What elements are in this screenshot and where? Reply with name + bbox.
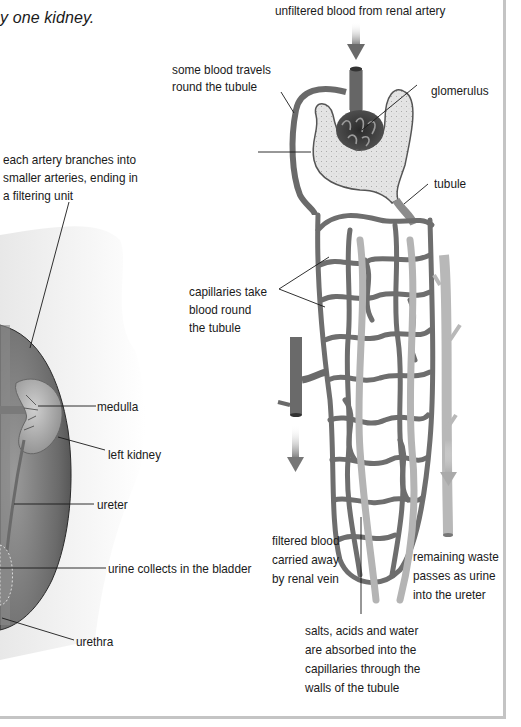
label-absorbed-line4: walls of the tubule [305,679,399,696]
label-waste-line1: remaining waste [413,548,499,565]
label-urethra: urethra [76,633,113,650]
label-tubule: tubule [434,175,466,192]
label-some-blood-line2: round the tubule [172,78,257,95]
label-glomerulus: glomerulus [431,82,489,99]
label-capillaries-line2: blood round [189,301,251,318]
label-filtered-line1: filtered blood [272,532,339,549]
label-artery-branch-line2: smaller arteries, ending in [3,169,138,186]
label-filtered-line2: carried away [272,551,339,568]
label-artery-branch-line3: a filtering unit [3,187,73,204]
label-left-kidney: left kidney [108,446,161,463]
label-absorbed-line1: salts, acids and water [305,622,418,639]
label-artery-branch-line1: each artery branches into [3,151,136,168]
label-capillaries-line1: capillaries take [189,283,267,300]
label-renal-artery: unfiltered blood from renal artery [275,2,445,19]
label-absorbed-line2: are absorbed into the [305,641,416,658]
label-waste-line3: into the ureter [413,586,486,603]
label-absorbed-line3: capillaries through the [305,660,420,677]
label-some-blood-line1: some blood travels [172,61,271,78]
label-waste-line2: passes as urine [413,567,496,584]
label-ureter: ureter [97,496,128,513]
label-capillaries-line3: the tubule [189,319,241,336]
label-bladder: urine collects in the bladder [108,560,251,577]
kidney-diagram-illustration [0,0,521,727]
label-medulla: medulla [97,398,138,415]
label-filtered-line3: by renal vein [272,570,339,587]
nephron-illustration [278,22,460,600]
